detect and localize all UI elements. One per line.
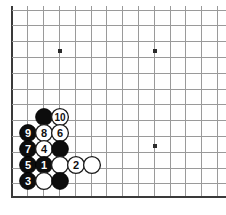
move-number-3: 3 [25,175,31,187]
stone-black [52,173,69,190]
stone-black-5[interactable]: 5 [20,157,37,174]
stone-white-plain-c[interactable] [36,173,53,190]
move-number-2: 2 [73,159,79,171]
move-number-5: 5 [25,159,31,171]
stone-white-plain-b[interactable] [84,157,101,174]
star-point-layer [58,49,157,148]
go-board-diagram: 10986745123 [0,0,226,215]
stone-white-2[interactable]: 2 [68,157,85,174]
stone-white-10[interactable]: 10 [52,109,69,126]
stone-white-plain-a[interactable] [52,157,69,174]
stone-white-8[interactable]: 8 [36,125,53,142]
move-number-1: 1 [41,159,47,171]
stone-white-4[interactable]: 4 [36,141,53,158]
stone-black-1[interactable]: 1 [36,157,53,174]
stone-black-3[interactable]: 3 [20,173,37,190]
stone-black [36,109,53,126]
move-number-7: 7 [25,143,31,155]
stone-white [84,157,101,174]
move-number-8: 8 [41,127,47,139]
stone-black-upper[interactable] [36,109,53,126]
stone-white-6[interactable]: 6 [52,125,69,142]
move-number-9: 9 [25,127,31,139]
stone-black-lower-right[interactable] [52,173,69,190]
star-point-lower-right [153,144,157,148]
stone-black [52,141,69,158]
star-point-upper-left [58,49,62,53]
stone-white [52,157,69,174]
stone-black-mid-right[interactable] [52,141,69,158]
goban-canvas[interactable]: 10986745123 [0,0,226,215]
stone-black-7[interactable]: 7 [20,141,37,158]
move-number-6: 6 [57,127,63,139]
star-point-upper-right [153,49,157,53]
move-number-10: 10 [54,112,66,123]
move-number-4: 4 [41,143,48,155]
stone-black-9[interactable]: 9 [20,125,37,142]
stone-white [36,173,53,190]
